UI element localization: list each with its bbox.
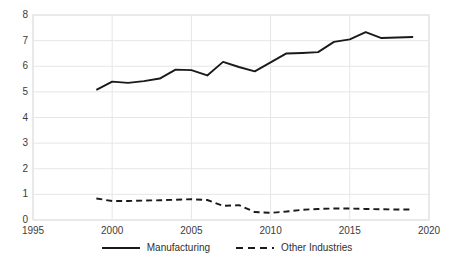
plot-area xyxy=(0,0,454,268)
legend-item-other-industries[interactable]: Other Industries xyxy=(236,243,352,253)
legend-label: Other Industries xyxy=(281,243,352,253)
x-axis-tick: 2015 xyxy=(325,226,375,236)
x-axis-tick: 2020 xyxy=(404,226,454,236)
legend-line-dashed-icon xyxy=(236,243,274,253)
chart-legend: Manufacturing Other Industries xyxy=(0,243,454,253)
y-axis-tick: 0 xyxy=(8,215,28,225)
y-axis-tick: 5 xyxy=(8,87,28,97)
y-axis-tick: 6 xyxy=(8,61,28,71)
x-axis-tick: 2010 xyxy=(246,226,296,236)
y-axis-tick: 4 xyxy=(8,113,28,123)
y-axis-tick: 7 xyxy=(8,36,28,46)
y-axis-tick: 1 xyxy=(8,189,28,199)
line-chart: 876543210 199520002005201020152020 Manuf… xyxy=(0,0,454,268)
y-axis-tick: 3 xyxy=(8,138,28,148)
y-axis-tick: 8 xyxy=(8,10,28,20)
legend-label: Manufacturing xyxy=(147,243,210,253)
x-axis-tick: 2005 xyxy=(166,226,216,236)
x-axis-tick: 1995 xyxy=(8,226,58,236)
y-axis-tick: 2 xyxy=(8,164,28,174)
legend-line-solid-icon xyxy=(102,243,140,253)
legend-item-manufacturing[interactable]: Manufacturing xyxy=(102,243,210,253)
x-axis-tick: 2000 xyxy=(87,226,137,236)
